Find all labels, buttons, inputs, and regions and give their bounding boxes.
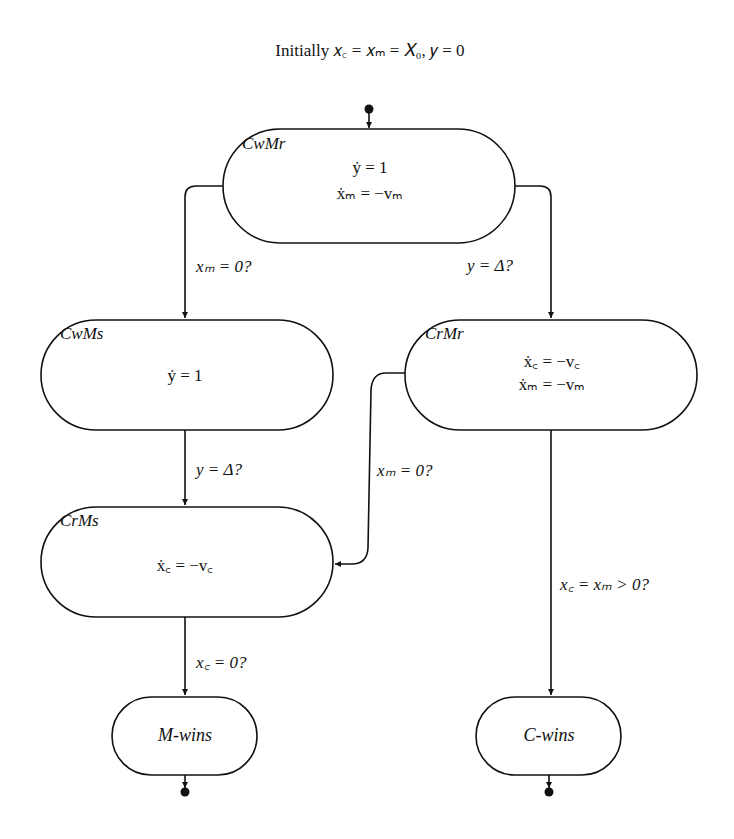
guard-CwMr-to-CrMr: y = Δ? bbox=[467, 256, 513, 276]
initial-state-dot bbox=[365, 105, 374, 114]
edge-CwMr-to-CrMr bbox=[515, 186, 551, 318]
state-name-CrMr: CrMr bbox=[425, 324, 464, 344]
guard-CrMr-to-C-wins: x꜀ = xₘ > 0? bbox=[560, 572, 649, 595]
state-name-CwMr: CwMr bbox=[242, 134, 285, 154]
guard-CrMr-to-CrMs: xₘ = 0? bbox=[377, 460, 433, 481]
state-name-CrMs: CrMs bbox=[60, 511, 99, 531]
edge-CwMr-to-CwMs bbox=[185, 186, 223, 318]
state-eq-CwMs-1: ẏ = 1 bbox=[167, 366, 202, 386]
state-name-CwMs: CwMs bbox=[60, 324, 103, 344]
final-dot-C-wins bbox=[545, 788, 554, 797]
state-eq-CwMr-1: ẏ = 1 bbox=[352, 158, 387, 178]
guard-CwMr-to-CwMs: xₘ = 0? bbox=[196, 256, 252, 277]
guard-CrMs-to-M-wins: x꜀ = 0? bbox=[196, 650, 247, 673]
final-dot-M-wins bbox=[181, 788, 190, 797]
state-name-C-wins: C-wins bbox=[523, 725, 574, 746]
state-eq-CwMr-2: ẋₘ = −vₘ bbox=[337, 183, 404, 204]
guard-CwMs-to-CrMs: y = Δ? bbox=[196, 460, 242, 480]
diagram-title: Initially 𝑥꜀ = 𝑥ₘ = 𝑋₀, 𝑦 = 0 bbox=[0, 40, 734, 61]
state-eq-CrMs-1: ẋ꜀ = −v꜀ bbox=[157, 553, 214, 576]
state-name-M-wins: M-wins bbox=[158, 725, 212, 746]
automaton-diagram bbox=[0, 0, 734, 839]
state-eq-CrMr-2: ẋₘ = −vₘ bbox=[519, 374, 586, 395]
state-eq-CrMr-1: ẋ꜀ = −v꜀ bbox=[524, 349, 581, 372]
